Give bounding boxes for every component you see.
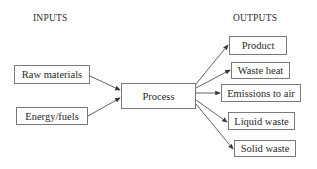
output-box-product: Product bbox=[229, 36, 287, 55]
outputs-heading: OUTPUTS bbox=[233, 13, 277, 23]
output-box-liquid-waste: Liquid waste bbox=[228, 112, 295, 130]
process-box: Process bbox=[121, 83, 196, 109]
arrow-process-to-liquid-waste bbox=[196, 100, 227, 122]
arrow-raw-materials-to-process bbox=[90, 76, 120, 90]
output-box-solid-waste: Solid waste bbox=[234, 140, 296, 157]
output-box-waste-heat: Waste heat bbox=[231, 62, 290, 79]
inputs-heading: INPUTS bbox=[33, 13, 67, 23]
input-box-raw-materials: Raw materials bbox=[14, 65, 90, 84]
arrow-energy-to-process bbox=[88, 98, 120, 116]
arrow-process-to-product bbox=[196, 45, 228, 84]
output-box-emissions-to-air: Emissions to air bbox=[221, 84, 301, 102]
input-box-energy-fuels: Energy/fuels bbox=[16, 107, 88, 125]
